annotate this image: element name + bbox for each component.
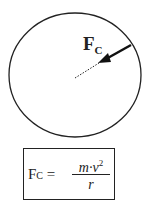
circle-path (9, 13, 141, 137)
formula-lhs-subscript: C (36, 170, 43, 181)
radius-dashed-line (75, 63, 99, 78)
formula-denominator: r (72, 176, 110, 194)
formula-exponent: 2 (99, 158, 104, 168)
circular-motion-diagram: FC (0, 0, 147, 145)
force-label: FC (83, 33, 103, 56)
formula-box: FC = m·v2 r (23, 148, 115, 200)
force-arrow-shaft (106, 45, 131, 59)
formula-lhs: FC = (28, 166, 55, 183)
formula-numerator: m·v2 (72, 153, 110, 173)
equals-sign: = (47, 166, 55, 182)
formula-fraction: m·v2 r (72, 153, 110, 194)
force-label-subscript: C (95, 44, 103, 56)
